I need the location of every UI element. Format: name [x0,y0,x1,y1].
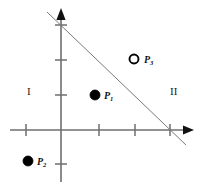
figure-container: P1 P2 P3 I II [0,0,201,190]
axes-group [10,8,194,182]
point-marker-p3 [130,55,139,64]
boundary-line-group [47,12,186,145]
data-points-group [23,55,139,167]
point-marker-p1 [90,90,100,100]
y-axis-arrowhead [56,8,65,20]
x-axis-arrowhead [183,125,194,134]
coordinate-plane-diagram [0,0,201,190]
point-marker-p2 [23,156,33,166]
boundary-line [47,12,186,145]
